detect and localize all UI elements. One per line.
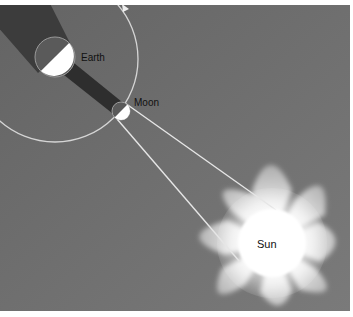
earth [35, 37, 75, 77]
moon-label: Moon [134, 97, 159, 108]
earth-label: Earth [81, 52, 105, 63]
sun-label: Sun [257, 238, 277, 250]
moon [112, 102, 130, 120]
eclipse-diagram: Earth Moon Sun [0, 0, 353, 317]
